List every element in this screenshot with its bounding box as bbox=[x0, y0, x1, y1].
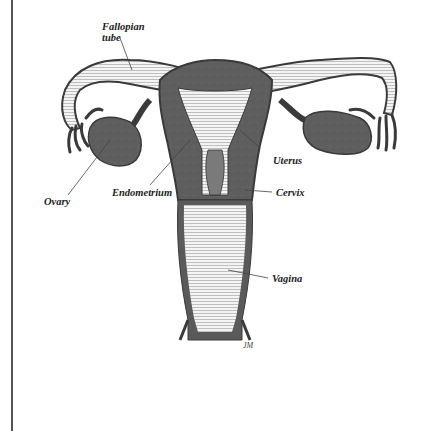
uterus bbox=[159, 60, 272, 200]
reproductive-anatomy-illustration bbox=[0, 0, 429, 431]
label-fallopian-tube: Fallopian tube bbox=[102, 21, 145, 43]
vagina bbox=[177, 200, 252, 340]
label-ovary: Ovary bbox=[44, 196, 70, 207]
label-vagina: Vagina bbox=[272, 273, 302, 284]
label-endometrium: Endometrium bbox=[112, 187, 172, 198]
label-uterus: Uterus bbox=[273, 155, 302, 166]
label-cervix: Cervix bbox=[276, 187, 305, 198]
artist-signature: JM bbox=[243, 341, 253, 350]
